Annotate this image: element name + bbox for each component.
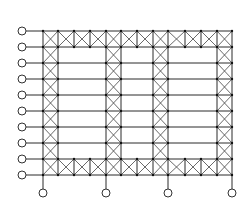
joint-node [42, 110, 44, 112]
joint-node [216, 110, 218, 112]
joint-node [57, 142, 59, 144]
joint-node [120, 142, 122, 144]
pin-support-icon [18, 43, 26, 51]
joint-node [152, 110, 154, 112]
joint-node [89, 174, 91, 176]
joint-node [42, 94, 44, 96]
pin-support-icon [18, 171, 26, 179]
joint-node [42, 142, 44, 144]
joint-node [184, 158, 186, 160]
joint-node [167, 62, 169, 64]
joint-node [167, 142, 169, 144]
pin-support-icon [18, 139, 26, 147]
joint-node [152, 62, 154, 64]
joint-node [73, 46, 75, 48]
joint-node [120, 30, 122, 32]
joint-node [216, 174, 218, 176]
joint-node [167, 94, 169, 96]
joint-node [42, 62, 44, 64]
joint-node [73, 158, 75, 160]
cross-braces [43, 31, 232, 175]
joint-node [89, 30, 91, 32]
joint-node [152, 174, 154, 176]
joint-node [57, 62, 59, 64]
joint-node [105, 30, 107, 32]
joint-node [167, 174, 169, 176]
joint-node [231, 94, 233, 96]
joint-node [120, 46, 122, 48]
pin-support-icon [18, 27, 26, 35]
joint-node [152, 46, 154, 48]
joint-node [105, 158, 107, 160]
joint-node [120, 62, 122, 64]
joint-node [57, 126, 59, 128]
joint-node [89, 158, 91, 160]
pin-support-icon [18, 155, 26, 163]
pin-support-icon [164, 189, 172, 197]
joint-node [231, 126, 233, 128]
joint-node [152, 30, 154, 32]
joint-node [105, 110, 107, 112]
joint-node [57, 110, 59, 112]
joint-node [216, 126, 218, 128]
joint-node [57, 174, 59, 176]
joint-node [184, 30, 186, 32]
pin-support-icon [18, 75, 26, 83]
joint-node [167, 126, 169, 128]
joint-node [105, 46, 107, 48]
frame-members [43, 31, 232, 175]
joint-node [57, 158, 59, 160]
pin-support-icon [18, 107, 26, 115]
joint-node [200, 174, 202, 176]
joint-node [167, 30, 169, 32]
joint-node [136, 174, 138, 176]
joint-node [216, 94, 218, 96]
joint-node [231, 30, 233, 32]
joint-node [231, 46, 233, 48]
joint-node [42, 30, 44, 32]
joint-node [120, 158, 122, 160]
joint-node [120, 110, 122, 112]
joint-node [152, 94, 154, 96]
joint-node [73, 30, 75, 32]
joint-node [120, 94, 122, 96]
joint-node [184, 46, 186, 48]
joint-node [216, 30, 218, 32]
joint-node [216, 142, 218, 144]
joint-node [57, 46, 59, 48]
joint-node [167, 46, 169, 48]
pin-support-icon [18, 91, 26, 99]
joint-node [73, 174, 75, 176]
joint-node [152, 78, 154, 80]
joint-node [167, 158, 169, 160]
pin-support-icon [18, 123, 26, 131]
joint-node [152, 142, 154, 144]
joint-node [105, 142, 107, 144]
joint-node [136, 30, 138, 32]
joint-node [231, 142, 233, 144]
joint-node [105, 174, 107, 176]
joint-node [42, 78, 44, 80]
joint-node [120, 126, 122, 128]
joint-node [89, 46, 91, 48]
joint-nodes [42, 30, 233, 176]
joint-node [42, 126, 44, 128]
joint-node [216, 46, 218, 48]
joint-node [184, 174, 186, 176]
joint-node [216, 158, 218, 160]
joint-node [152, 126, 154, 128]
joint-node [231, 62, 233, 64]
joint-node [57, 94, 59, 96]
pin-supports [18, 27, 236, 197]
joint-node [57, 30, 59, 32]
pin-support-icon [39, 189, 47, 197]
joint-node [167, 78, 169, 80]
joint-node [200, 158, 202, 160]
joint-node [120, 78, 122, 80]
joint-node [200, 46, 202, 48]
joint-node [105, 126, 107, 128]
joint-node [231, 158, 233, 160]
joint-node [42, 46, 44, 48]
braced-frame-diagram [0, 0, 249, 209]
joint-node [105, 94, 107, 96]
